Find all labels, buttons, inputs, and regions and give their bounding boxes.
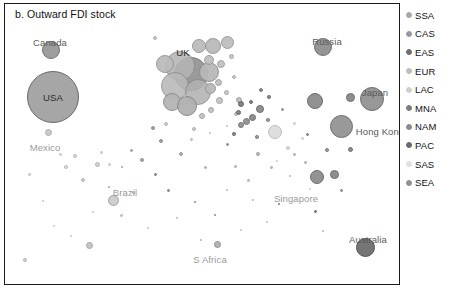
- bubble-hong-kong: [330, 115, 353, 138]
- bubble-taiwan: [249, 114, 256, 121]
- bubble-croatia: [176, 217, 178, 219]
- bubble-maldives: [276, 160, 278, 162]
- bubble-sri-lanka: [293, 122, 296, 125]
- legend-item-sea[interactable]: SEA: [406, 173, 449, 192]
- legend-item-label: CAS: [415, 28, 435, 39]
- bubble-ireland: [192, 39, 206, 53]
- bubble-serbia: [240, 229, 242, 231]
- bubble-iceland: [153, 36, 157, 40]
- bubble-singapore-b: [330, 170, 339, 179]
- legend-item-eur[interactable]: EUR: [406, 62, 449, 81]
- bubble-lithuania: [190, 138, 193, 141]
- bubble-moldova: [209, 132, 211, 134]
- bubble-pakistan: [286, 146, 290, 150]
- bubble-slovenia: [266, 221, 268, 223]
- legend-item-sas[interactable]: SAS: [406, 155, 449, 174]
- bubble-latvia: [164, 122, 168, 126]
- bubble-norway: [204, 55, 214, 65]
- bubble-belarus: [226, 125, 228, 127]
- bubble-denmark: [221, 36, 234, 49]
- bubble-thailand: [238, 122, 244, 128]
- legend-dot-icon: [406, 12, 412, 18]
- bubble-kenya: [204, 166, 207, 169]
- bubble-mexico: [45, 129, 52, 136]
- bubble-spain: [177, 96, 197, 116]
- bubble-botswana: [247, 179, 250, 182]
- bubble-estonia: [232, 75, 236, 79]
- label-canada: Canada: [33, 37, 67, 48]
- bubble-uganda: [200, 239, 202, 241]
- bubble-hungary: [208, 107, 214, 113]
- legend-item-ssa[interactable]: SSA: [406, 6, 449, 25]
- legend-item-pac[interactable]: PAC: [406, 136, 449, 155]
- label-uk: UK: [176, 47, 189, 58]
- bubble-venezuela: [100, 151, 103, 154]
- bubble-morocco: [154, 173, 157, 176]
- bubble-luxembourg: [229, 54, 234, 59]
- legend-item-label: EUR: [415, 66, 435, 77]
- bubble-macao: [348, 147, 353, 152]
- bubble-qatar: [232, 132, 236, 136]
- legend-item-label: EAS: [415, 47, 434, 58]
- bubble-japan-small: [346, 93, 355, 102]
- legend-item-mna[interactable]: MNA: [406, 99, 449, 118]
- bubble-mongolia: [306, 133, 309, 136]
- label-singapore: Singapore: [274, 193, 318, 204]
- bubble-guatemala: [42, 200, 44, 202]
- bubble-kuwait: [249, 100, 253, 104]
- legend-item-label: SSA: [415, 10, 434, 21]
- bubble-tunisia: [194, 201, 196, 203]
- bubble-brunei: [281, 108, 284, 111]
- bubble-armenia: [121, 166, 123, 168]
- chart-title: b. Outward FDI stock: [15, 8, 116, 20]
- bubble-romania: [120, 214, 123, 217]
- label-mexico: Mexico: [30, 142, 61, 153]
- bubble-azerbaijan: [140, 158, 144, 162]
- chart-root: b. Outward FDI stock CanadaUSAMexicoBraz…: [0, 0, 449, 290]
- bubble-czechia: [224, 90, 229, 95]
- legend: SSACASEASEURLACMNANAMPACSASSEA: [406, 6, 449, 192]
- bubble-ecuador: [108, 163, 111, 166]
- bubble-georgia: [130, 149, 133, 152]
- bubble-finland: [217, 60, 225, 68]
- legend-dot-icon: [406, 87, 412, 93]
- label-s-africa: S Africa: [193, 254, 227, 265]
- bubble-honduras: [92, 211, 94, 213]
- legend-dot-icon: [406, 161, 412, 167]
- legend-item-label: MNA: [415, 103, 436, 114]
- bubble-singapore: [310, 170, 324, 184]
- legend-dot-icon: [406, 124, 412, 130]
- legend-item-nam[interactable]: NAM: [406, 118, 449, 137]
- bubble-jordan: [214, 214, 216, 216]
- legend-item-cas[interactable]: CAS: [406, 25, 449, 44]
- bubble-austria: [205, 83, 216, 94]
- bubble-cambodia: [325, 148, 329, 152]
- legend-item-label: SEA: [415, 177, 434, 188]
- legend-item-label: LAC: [415, 84, 434, 95]
- legend-dot-icon: [406, 180, 412, 186]
- bubble-poland: [216, 97, 223, 104]
- bubble-ghana: [234, 165, 237, 168]
- bubble-jamaica: [53, 225, 55, 227]
- bubble-indonesia: [255, 135, 259, 139]
- legend-item-eas[interactable]: EAS: [406, 43, 449, 62]
- bubble-costa-rica: [70, 235, 72, 237]
- bubble-s-africa: [214, 241, 221, 248]
- bubble-greece: [199, 113, 205, 119]
- bubble-fiji: [400, 256, 401, 259]
- bubble-peru: [64, 165, 68, 169]
- legend-item-lac[interactable]: LAC: [406, 80, 449, 99]
- bubble-bangladesh: [301, 137, 304, 140]
- legend-dot-icon: [406, 49, 412, 55]
- bubble-paraguay: [23, 258, 27, 262]
- bubble-tanzania: [293, 153, 296, 156]
- legend-dot-icon: [406, 142, 412, 148]
- bubble-bermuda: [259, 88, 263, 92]
- legend-dot-icon: [406, 105, 412, 111]
- legend-item-label: PAC: [415, 140, 434, 151]
- bubble-png: [314, 210, 317, 213]
- bubble-portugal: [215, 79, 222, 86]
- bubble-china: [307, 93, 323, 109]
- bubble-slovakia: [192, 127, 196, 131]
- bubble-zambia: [304, 161, 307, 164]
